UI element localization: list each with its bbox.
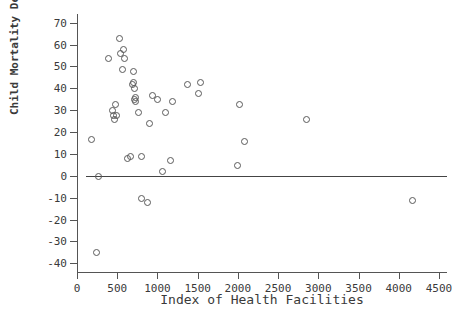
data-point xyxy=(167,157,174,164)
y-tick-label: -30 xyxy=(47,235,67,248)
data-point xyxy=(241,138,248,145)
y-axis-spine xyxy=(77,14,78,272)
data-point xyxy=(131,85,138,92)
data-point xyxy=(105,55,112,62)
x-tick xyxy=(359,272,360,279)
x-tick xyxy=(439,272,440,279)
y-tick-label: 10 xyxy=(54,147,67,160)
x-tick xyxy=(77,272,78,279)
data-point xyxy=(184,81,191,88)
data-point xyxy=(197,79,204,86)
y-tick xyxy=(70,176,77,177)
data-point xyxy=(162,109,169,116)
data-point xyxy=(116,35,123,42)
y-tick-label: 70 xyxy=(54,16,67,29)
x-tick xyxy=(157,272,158,279)
data-point xyxy=(146,120,153,127)
x-axis-spine xyxy=(77,272,447,273)
y-tick xyxy=(70,263,77,264)
y-tick-label: -40 xyxy=(47,257,67,270)
data-point xyxy=(132,94,139,101)
data-point xyxy=(138,153,145,160)
data-point xyxy=(154,96,161,103)
x-axis-title: Index of Health Facilities xyxy=(77,292,447,307)
data-point xyxy=(120,46,127,53)
y-tick xyxy=(70,110,77,111)
y-tick xyxy=(70,154,77,155)
data-point xyxy=(119,66,126,73)
data-point xyxy=(236,101,243,108)
y-tick xyxy=(70,45,77,46)
data-point xyxy=(93,249,100,256)
y-tick xyxy=(70,66,77,67)
y-tick xyxy=(70,220,77,221)
y-tick-label: -10 xyxy=(47,191,67,204)
data-point xyxy=(409,197,416,204)
data-point xyxy=(121,55,128,62)
y-tick xyxy=(70,241,77,242)
x-tick xyxy=(278,272,279,279)
data-point xyxy=(130,68,137,75)
y-tick-label: 60 xyxy=(54,38,67,51)
scatter-plot-figure: Child Mortality Decline: % -40-30-20-100… xyxy=(0,0,453,326)
data-point xyxy=(95,173,102,180)
x-tick xyxy=(238,272,239,279)
y-tick xyxy=(70,132,77,133)
y-tick-label: 0 xyxy=(60,169,67,182)
y-tick-label: 50 xyxy=(54,60,67,73)
y-tick-label: -20 xyxy=(47,213,67,226)
data-point xyxy=(144,199,151,206)
x-tick xyxy=(198,272,199,279)
data-point xyxy=(195,90,202,97)
data-point xyxy=(234,162,241,169)
data-point xyxy=(169,98,176,105)
x-tick xyxy=(117,272,118,279)
y-tick-label: 20 xyxy=(54,126,67,139)
y-tick-label: 40 xyxy=(54,82,67,95)
x-tick xyxy=(318,272,319,279)
data-point xyxy=(159,168,166,175)
y-tick xyxy=(70,88,77,89)
y-tick xyxy=(70,198,77,199)
data-point xyxy=(88,136,95,143)
zero-reference-line xyxy=(86,176,447,177)
data-point xyxy=(127,153,134,160)
data-point xyxy=(112,101,119,108)
y-tick xyxy=(70,23,77,24)
data-point xyxy=(113,112,120,119)
x-tick xyxy=(399,272,400,279)
y-tick-label: 30 xyxy=(54,104,67,117)
clipped-caption xyxy=(8,318,448,326)
plot-area: -40-30-20-10010203040506070 050010001500… xyxy=(77,14,447,272)
y-axis-title: Child Mortality Decline: % xyxy=(3,0,25,174)
data-point xyxy=(135,109,142,116)
data-point xyxy=(303,116,310,123)
